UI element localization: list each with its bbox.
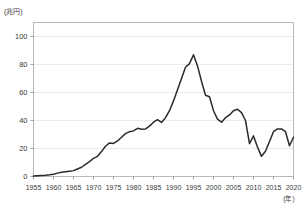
x-axis-tick-label: 1975 bbox=[106, 184, 122, 191]
data-series-line bbox=[34, 55, 294, 176]
x-axis-tick-label: 1985 bbox=[146, 184, 162, 191]
x-axis-tick-label: 2005 bbox=[226, 184, 242, 191]
x-axis-tick-label: 2000 bbox=[206, 184, 222, 191]
line-chart: (兆円) 020406080100 1955196019651970197519… bbox=[0, 0, 305, 215]
x-axis-tick-label: 1970 bbox=[86, 184, 102, 191]
y-axis-tick-label: 20 bbox=[19, 144, 27, 153]
x-axis-tick-label: 1965 bbox=[66, 184, 82, 191]
y-axis-unit-label: (兆円) bbox=[4, 7, 23, 16]
y-axis-tick-label: 80 bbox=[19, 60, 27, 69]
gridlines-group bbox=[34, 37, 294, 149]
x-axis-tick-label: 1995 bbox=[186, 184, 202, 191]
x-axis-tick-label: 1990 bbox=[166, 184, 182, 191]
x-axis-tick-label: 1960 bbox=[46, 184, 62, 191]
plot-frame bbox=[34, 23, 294, 177]
x-axis-tick-label: 2020 bbox=[286, 184, 302, 191]
chart-container: (兆円) 020406080100 1955196019651970197519… bbox=[0, 0, 305, 215]
y-axis-tick-label: 100 bbox=[15, 32, 28, 41]
y-axis-tick-label: 60 bbox=[19, 88, 27, 97]
y-axis-tick-label: 40 bbox=[19, 116, 27, 125]
x-axis-tick-label: 2015 bbox=[266, 184, 282, 191]
x-axis-tick-label: 1955 bbox=[26, 184, 42, 191]
x-axis-tick-label: 2010 bbox=[246, 184, 262, 191]
x-axis-unit-label: (年) bbox=[283, 194, 294, 203]
y-axis-tick-label: 0 bbox=[23, 172, 27, 181]
x-axis-tick-label: 1980 bbox=[126, 184, 142, 191]
x-axis-ticks-group: 1955196019651970197519801985199019952000… bbox=[26, 177, 302, 191]
y-axis-ticks-group: 020406080100 bbox=[15, 32, 34, 181]
